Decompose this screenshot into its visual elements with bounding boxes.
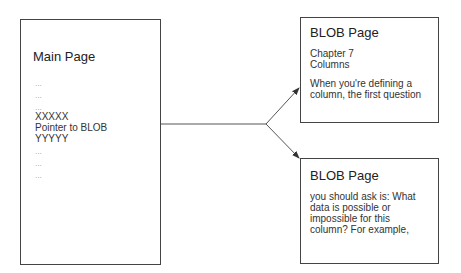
main-line-8: ... bbox=[35, 170, 42, 182]
main-line-1: ... bbox=[35, 90, 42, 102]
blob-1-line-b0: When you're defining a bbox=[310, 78, 412, 90]
blob-1-line-b1: column, the first question bbox=[310, 89, 421, 101]
blob-1-line-a0: Chapter 7 bbox=[310, 48, 354, 60]
main-page-title: Main Page bbox=[33, 49, 95, 64]
main-page-box: Main Page ... ... ... XXXXX Pointer to B… bbox=[20, 19, 161, 265]
blob-2-line-0: you should ask is: What bbox=[310, 191, 416, 203]
blob-1-line-a1: Columns bbox=[310, 59, 349, 71]
main-line-3: XXXXX bbox=[35, 111, 68, 123]
blob-page-box-2: BLOB Page you should ask is: What data i… bbox=[300, 158, 439, 264]
main-line-0: ... bbox=[35, 78, 42, 90]
blob-2-line-2: impossible for this bbox=[310, 213, 390, 225]
main-line-5: YYYYY bbox=[35, 133, 68, 145]
blob-2-line-3: column? For example, bbox=[310, 224, 409, 236]
blob-page-2-title: BLOB Page bbox=[310, 168, 379, 183]
blob-page-1-title: BLOB Page bbox=[310, 25, 379, 40]
main-line-6: ... bbox=[35, 146, 42, 158]
main-line-7: ... bbox=[35, 158, 42, 170]
main-line-4: Pointer to BLOB bbox=[35, 122, 107, 134]
blob-page-box-1: BLOB Page Chapter 7 Columns When you're … bbox=[300, 17, 439, 123]
blob-2-line-1: data is possible or bbox=[310, 202, 391, 214]
